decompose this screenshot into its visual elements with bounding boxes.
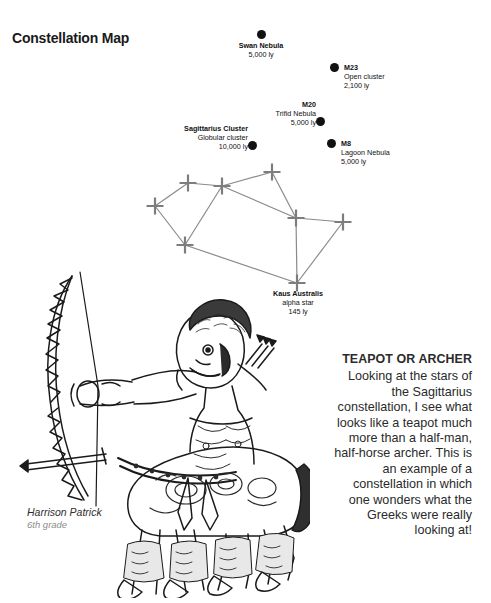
- constellation-line: [222, 172, 272, 186]
- dso-subtitle-m23: Open cluster: [344, 72, 424, 81]
- constellation-line: [185, 186, 222, 245]
- constellation-line: [272, 172, 296, 218]
- signature-grade: 6th grade: [27, 519, 102, 530]
- star-glyph-star-mid-right: [288, 210, 305, 227]
- signature: Harrison Patrick 6th grade: [27, 506, 102, 530]
- dso-label-swan-nebula: Swan Nebula5,000 ly: [219, 41, 303, 59]
- dso-marker-m23: [330, 63, 339, 72]
- dso-marker-m20: [316, 117, 325, 126]
- star-glyph-star-top-center: [214, 178, 231, 195]
- dso-subtitle-sagittarius-cluster: Globular cluster: [168, 133, 248, 142]
- constellation-line: [155, 183, 188, 206]
- constellation-lines: [155, 172, 343, 283]
- dso-name-m23: M23: [344, 63, 424, 72]
- star-glyph-star-lower-left: [177, 237, 194, 254]
- dso-subtitle-m20: Trifid Nebula: [248, 109, 316, 118]
- star-glyph-star-west: [147, 198, 164, 215]
- constellation-line: [296, 218, 343, 222]
- dso-distance-m23: 2,100 ly: [344, 81, 424, 90]
- dso-name-sagittarius-cluster: Sagittarius Cluster: [168, 124, 248, 133]
- constellation-line: [155, 206, 185, 245]
- dso-marker-sagittarius-cluster: [248, 141, 257, 150]
- caption-heading: TEAPOT OR ARCHER: [332, 352, 472, 367]
- star-glyph-star-upper-left: [180, 175, 197, 192]
- dso-marker-swan-nebula: [257, 30, 266, 39]
- signature-name: Harrison Patrick: [27, 506, 102, 518]
- caption-body: Looking at the stars of the Sagittarius …: [334, 369, 472, 537]
- dso-distance-m8: 5,000 ly: [341, 157, 423, 166]
- dso-distance-sagittarius-cluster: 10,000 ly: [168, 142, 248, 151]
- page-title: Constellation Map: [12, 30, 129, 46]
- constellation-line: [188, 183, 222, 186]
- dso-name-swan-nebula: Swan Nebula: [219, 41, 303, 50]
- centaur-archer-illustration: [10, 268, 310, 598]
- star-glyph-star-far-east: [335, 214, 352, 231]
- dso-label-sagittarius-cluster: Sagittarius ClusterGlobular cluster10,00…: [168, 124, 248, 152]
- dso-name-m8: M8: [341, 139, 423, 148]
- constellation-line: [222, 186, 296, 218]
- dso-distance-m20: 5,000 ly: [248, 118, 316, 127]
- constellation-map-page: Constellation Map Swan Nebula5,000 lyM23…: [0, 0, 491, 603]
- dso-marker-m8: [327, 139, 336, 148]
- dso-label-m20: M20Trifid Nebula5,000 ly: [248, 100, 316, 128]
- dso-label-m23: M23Open cluster2,100 ly: [344, 63, 424, 91]
- dso-name-m20: M20: [248, 100, 316, 109]
- dso-label-m8: M8Lagoon Nebula5,000 ly: [341, 139, 423, 167]
- star-glyph-star-top-right: [264, 164, 281, 181]
- dso-distance-swan-nebula: 5,000 ly: [219, 50, 303, 59]
- dso-subtitle-m8: Lagoon Nebula: [341, 148, 423, 157]
- caption-block: TEAPOT OR ARCHER Looking at the stars of…: [332, 352, 472, 539]
